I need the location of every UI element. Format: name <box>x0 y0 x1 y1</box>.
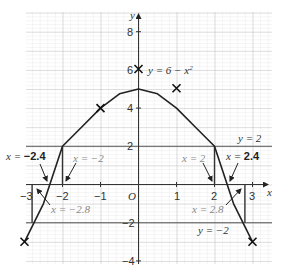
y-tick-2: 2 <box>127 140 133 152</box>
y-tick-8: 8 <box>127 26 133 38</box>
origin-label: O <box>128 190 136 202</box>
y-tick-4: 4 <box>127 102 133 114</box>
x-tick-minus-2: −2 <box>56 190 69 202</box>
x-equals-minus-2-label: x = −2 <box>72 152 104 164</box>
x-tick-1: 1 <box>174 190 180 202</box>
y-tick-minus-2: −2 <box>122 217 135 229</box>
y-equals-minus-2-label: y = −2 <box>197 224 229 236</box>
y-tick-minus-4: −4 <box>122 255 135 267</box>
curve-equation-label: y = 6 − x2 <box>147 64 193 76</box>
x-tick-minus-1: −1 <box>94 190 107 202</box>
x-tick-3: 3 <box>249 190 255 202</box>
x-equals-minus-2-4-label: x = −2.4 <box>5 150 46 162</box>
x-equals-2-8-label: x = 2.8 <box>191 203 224 215</box>
x-equals-2-4-label: x = 2.4 <box>225 150 260 162</box>
y-axis-label: y <box>129 9 135 21</box>
y-equals-2-label: y = 2 <box>237 132 262 144</box>
x-equals-2-label: x = 2 <box>181 152 206 164</box>
y-tick-6: 6 <box>127 64 133 76</box>
graph-canvas: −3 −2 −1 O 1 2 3 8 6 4 2 −2 −4 y x y = 6… <box>0 0 283 271</box>
x-tick-2: 2 <box>211 190 217 202</box>
grid <box>26 12 272 264</box>
x-tick-minus-3: −3 <box>20 190 33 202</box>
x-equals-minus-2-8-label: x = −2.8 <box>50 203 90 215</box>
x-axis-label: x <box>266 186 272 198</box>
